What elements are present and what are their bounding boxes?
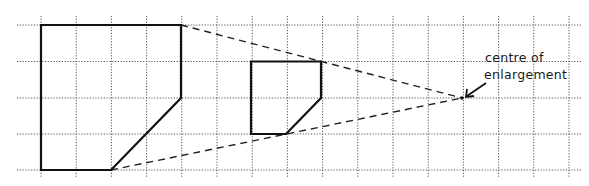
annotation-line-2: enlargement: [484, 68, 567, 81]
annotation-line-1: centre of: [485, 51, 544, 64]
diagram-canvas: [0, 0, 589, 186]
arrow-icon: [466, 83, 486, 97]
centre-point: [460, 96, 464, 100]
dotted-grid: [17, 16, 581, 177]
enlargement-diagram: centre of enlargement: [0, 0, 589, 186]
